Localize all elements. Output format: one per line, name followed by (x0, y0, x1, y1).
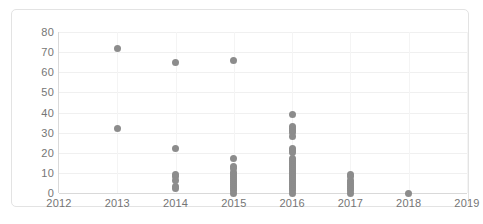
y-axis-tick-label: 80 (14, 27, 54, 38)
gridline-horizontal (59, 32, 467, 33)
gridline-horizontal (59, 133, 467, 134)
scatter-point (289, 190, 296, 197)
gridline-horizontal (59, 92, 467, 93)
scatter-point (230, 57, 237, 64)
gridline-horizontal (59, 113, 467, 114)
gridline-vertical (117, 32, 118, 193)
y-axis-tick-label: 40 (14, 108, 54, 119)
scatter-point (347, 190, 354, 197)
chart-container: 01020304050607080 2012201320142015201620… (11, 9, 469, 207)
scatter-point (172, 145, 179, 152)
scatter-plot-area (59, 32, 467, 193)
scatter-point (114, 125, 121, 132)
scatter-point (405, 190, 412, 197)
gridline-horizontal (59, 153, 467, 154)
y-axis-tick-label: 50 (14, 87, 54, 98)
y-axis-tick-label: 70 (14, 47, 54, 58)
x-axis-tick-labels: 20122013201420152016201720182019 (59, 197, 467, 213)
gridline-vertical (409, 32, 410, 193)
scatter-point (230, 155, 237, 162)
scatter-point (114, 45, 121, 52)
x-axis-tick-label: 2019 (444, 197, 483, 210)
scatter-point (172, 185, 179, 192)
x-axis-tick-label: 2015 (211, 197, 257, 210)
x-axis-tick-label: 2018 (386, 197, 432, 210)
y-axis-tick-label: 60 (14, 67, 54, 78)
y-axis-tick-label: 10 (14, 168, 54, 179)
x-axis-tick-label: 2017 (327, 197, 373, 210)
gridline-horizontal (59, 173, 467, 174)
gridline-vertical (350, 32, 351, 193)
scatter-point (172, 59, 179, 66)
x-axis-tick-label: 2013 (94, 197, 140, 210)
scatter-point (289, 133, 296, 140)
y-axis-tick-labels: 01020304050607080 (12, 32, 54, 193)
gridline-vertical (176, 32, 177, 193)
y-axis-tick-label: 20 (14, 148, 54, 159)
x-axis-tick-label: 2012 (36, 197, 82, 210)
scatter-point (230, 190, 237, 197)
gridline-vertical (467, 32, 468, 193)
scatter-point (289, 111, 296, 118)
x-axis-tick-label: 2014 (153, 197, 199, 210)
x-axis-tick-label: 2016 (269, 197, 315, 210)
gridline-horizontal (59, 52, 467, 53)
gridline-horizontal (59, 72, 467, 73)
y-axis-tick-label: 30 (14, 128, 54, 139)
